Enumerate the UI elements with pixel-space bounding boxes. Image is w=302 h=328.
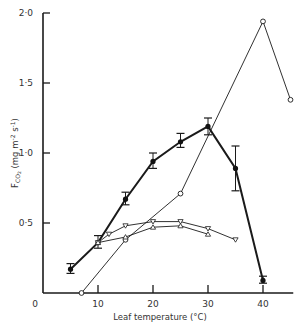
data-point xyxy=(123,197,128,202)
x-axis-label: Leaf temperature (°C) xyxy=(113,312,207,322)
data-point xyxy=(68,267,73,272)
data-point xyxy=(205,124,210,129)
y-tick-label: 2·0 xyxy=(19,8,34,18)
data-point xyxy=(233,166,238,171)
data-point xyxy=(150,159,155,164)
series-triangle-up xyxy=(95,223,210,244)
series-filled-circle xyxy=(67,118,268,283)
data-point xyxy=(233,238,238,242)
data-point xyxy=(178,139,183,144)
x-tick-label: 30 xyxy=(202,299,214,309)
y-tick-label: 0·5 xyxy=(19,218,33,228)
data-point xyxy=(261,19,266,24)
series-line xyxy=(71,126,264,280)
data-point xyxy=(205,227,210,231)
data-point xyxy=(123,224,128,228)
x-tick-label: 0 xyxy=(32,299,38,309)
series-open-circle xyxy=(79,19,293,295)
chart: 0·51·01·52·0010203040 Leaf temperature (… xyxy=(0,0,302,328)
y-tick-label: 1·0 xyxy=(19,148,34,158)
series-line xyxy=(82,21,291,293)
x-tick-label: 40 xyxy=(257,299,269,309)
data-point xyxy=(288,97,293,102)
data-point xyxy=(178,191,183,196)
x-tick-label: 20 xyxy=(147,299,159,309)
y-tick-label: 1·5 xyxy=(19,78,33,88)
series-triangle-down xyxy=(95,220,238,245)
data-point xyxy=(79,291,84,296)
labels: Leaf temperature (°C) FCO2 (mg m-2 s-1) xyxy=(9,118,207,322)
series-line xyxy=(98,222,236,243)
data-point xyxy=(260,278,265,283)
x-tick-label: 10 xyxy=(92,299,104,309)
series-layer xyxy=(67,19,293,295)
